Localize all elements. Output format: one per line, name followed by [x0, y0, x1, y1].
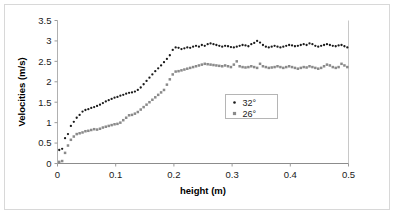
data-point	[346, 66, 349, 69]
data-point	[70, 125, 72, 127]
data-point	[218, 65, 221, 68]
data-point	[163, 61, 165, 63]
data-point	[300, 44, 302, 46]
data-point	[288, 65, 291, 68]
data-point	[198, 45, 200, 47]
data-point	[198, 64, 201, 67]
data-point	[236, 45, 238, 47]
x-tick-label: 0.4	[284, 169, 297, 180]
data-point	[204, 45, 206, 47]
data-point	[268, 67, 271, 70]
data-point	[317, 45, 319, 47]
data-point	[78, 132, 81, 135]
data-point	[297, 67, 300, 70]
data-point	[262, 44, 264, 46]
plot-frame	[58, 21, 349, 164]
y-axis-title: Velocities (m/s)	[16, 57, 27, 126]
data-point	[224, 64, 227, 67]
legend-marker-square	[233, 112, 236, 115]
y-tick-label: 2.5	[38, 56, 51, 67]
x-tick-label: 0.2	[167, 169, 180, 180]
data-point	[148, 77, 150, 79]
data-point	[119, 121, 122, 124]
data-point	[131, 114, 134, 117]
data-point	[314, 45, 316, 47]
series-26	[58, 60, 349, 163]
data-point	[224, 45, 226, 47]
data-point	[163, 89, 166, 92]
data-point	[169, 78, 172, 81]
data-point	[75, 133, 78, 136]
data-point	[102, 102, 104, 104]
data-point	[300, 67, 303, 70]
y-tick-label: 3.5	[38, 15, 51, 26]
data-point	[166, 58, 168, 60]
data-point	[323, 44, 325, 46]
data-point	[265, 45, 267, 47]
data-point	[195, 45, 197, 47]
data-point	[151, 99, 154, 102]
data-point	[323, 65, 326, 68]
data-point	[247, 45, 249, 47]
data-point	[140, 86, 142, 88]
x-tick-label: 0.1	[109, 169, 122, 180]
data-point	[174, 70, 177, 73]
data-point	[238, 65, 241, 68]
data-point	[151, 73, 153, 75]
data-point	[131, 91, 133, 93]
x-tick-label: 0.3	[225, 169, 238, 180]
data-point	[142, 106, 145, 109]
legend-marker-dot	[233, 101, 236, 104]
data-point	[343, 45, 345, 47]
data-point	[273, 66, 276, 69]
data-point	[64, 137, 66, 139]
data-point	[256, 67, 259, 70]
data-point	[96, 105, 98, 107]
data-point	[305, 66, 308, 69]
data-point	[314, 67, 317, 70]
data-point	[212, 43, 214, 45]
data-point	[340, 44, 342, 46]
data-point	[154, 70, 156, 72]
data-point	[201, 44, 203, 46]
data-point	[218, 45, 220, 47]
data-point	[148, 101, 151, 104]
data-point	[177, 47, 179, 49]
data-point	[294, 67, 297, 70]
data-point	[273, 45, 275, 47]
data-point	[171, 73, 174, 76]
data-point	[343, 64, 346, 67]
data-point	[320, 67, 323, 70]
data-point	[253, 42, 255, 44]
data-point	[259, 63, 262, 66]
data-point	[105, 125, 108, 128]
y-tick-label: 3	[46, 35, 51, 46]
data-point	[288, 44, 290, 46]
data-point	[125, 92, 127, 94]
data-point	[239, 45, 241, 47]
data-point	[236, 60, 239, 63]
data-point	[335, 45, 337, 47]
data-point	[139, 108, 142, 111]
data-point	[61, 160, 64, 163]
data-point	[291, 44, 293, 46]
data-point	[116, 123, 119, 126]
y-tick-label: 1	[46, 117, 51, 128]
data-point	[247, 66, 250, 69]
data-point	[102, 126, 105, 129]
data-point	[64, 152, 67, 155]
data-point	[78, 114, 80, 116]
data-point	[302, 66, 305, 69]
data-point	[285, 66, 288, 69]
x-axis-title: height (m)	[180, 185, 226, 196]
data-point	[303, 43, 305, 45]
series-32	[58, 40, 348, 151]
data-point	[256, 40, 258, 42]
data-point	[90, 107, 92, 109]
data-point	[99, 104, 101, 106]
data-point	[180, 48, 182, 50]
data-point	[227, 45, 229, 47]
data-point	[276, 65, 279, 68]
chart-figure: 00.511.522.533.500.10.20.30.40.5height (…	[0, 0, 394, 214]
data-point	[265, 66, 268, 69]
